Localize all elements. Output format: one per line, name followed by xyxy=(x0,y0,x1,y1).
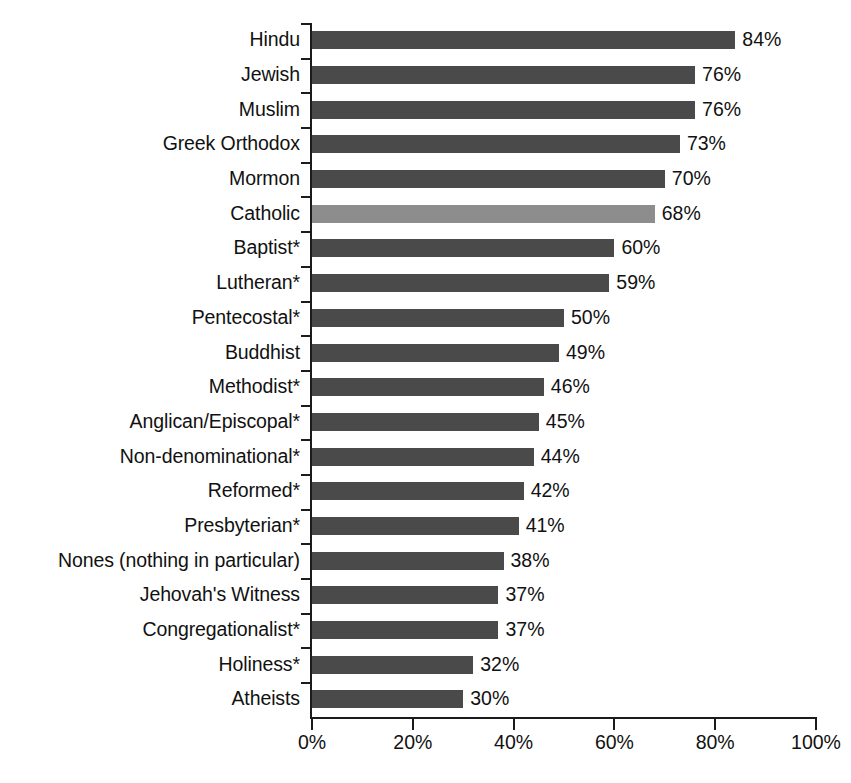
x-axis-tick-label: 0% xyxy=(298,733,326,753)
plot-area: Hindu84%Jewish76%Muslim76%Greek Orthodox… xyxy=(0,0,851,783)
x-axis-tick xyxy=(613,719,615,730)
x-axis-tick-label: 20% xyxy=(393,733,432,753)
x-axis-tick-label: 100% xyxy=(791,733,841,753)
x-axis-tick xyxy=(815,719,817,730)
x-axis-tick-label: 40% xyxy=(494,733,533,753)
x-axis-tick xyxy=(311,719,313,730)
x-axis-ticks: 0%20%40%60%80%100% xyxy=(0,0,851,783)
x-axis-tick-label: 80% xyxy=(696,733,735,753)
x-axis-tick-label: 60% xyxy=(595,733,634,753)
x-axis-tick xyxy=(513,719,515,730)
x-axis-tick xyxy=(714,719,716,730)
bar-chart: Hindu84%Jewish76%Muslim76%Greek Orthodox… xyxy=(0,0,851,783)
x-axis-tick xyxy=(412,719,414,730)
